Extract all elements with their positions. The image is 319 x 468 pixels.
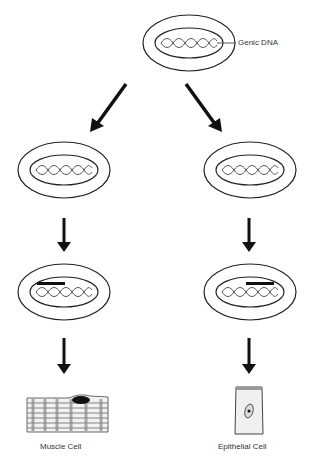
muscle-cell-illustration <box>27 395 108 432</box>
active-gene-bar-left <box>37 282 65 285</box>
right-nucleus-activated <box>204 264 296 320</box>
arrow-left-down-2 <box>57 338 71 374</box>
epithelial-cell-label: Epithelial Cell <box>218 442 266 451</box>
arrow-left-diagonal <box>90 84 126 132</box>
active-gene-bar-right <box>246 282 274 285</box>
muscle-cell-label: Muscle Cell <box>40 442 81 451</box>
left-nucleus-activated <box>18 264 110 320</box>
arrow-right-down-1 <box>242 218 256 252</box>
arrow-right-diagonal <box>186 84 222 132</box>
left-nucleus-undifferentiated <box>18 142 110 198</box>
arrow-left-down-1 <box>57 218 71 252</box>
muscle-nucleus <box>72 396 90 404</box>
epithelial-cell-illustration <box>235 387 263 434</box>
arrow-right-down-2 <box>242 338 256 374</box>
diagram-canvas <box>0 0 319 468</box>
genic-dna-label: Genic DNA <box>238 38 278 47</box>
right-nucleus-undifferentiated <box>204 142 296 198</box>
